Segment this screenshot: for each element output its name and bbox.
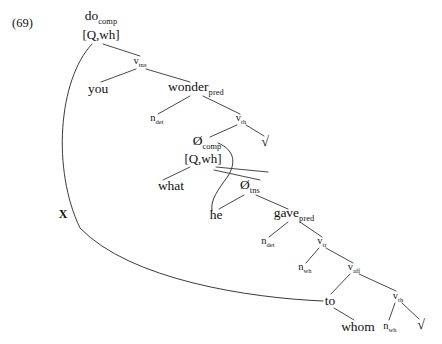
node-text: √ — [417, 317, 425, 332]
node-subscript: wh — [304, 267, 312, 274]
tree-node-you: you — [88, 82, 108, 96]
tree-node-q-wh-emb: [Q,wh] — [184, 152, 221, 165]
tree-node-what: what — [158, 179, 184, 193]
node-subscript: aff — [353, 267, 360, 274]
node-subscript: pred — [209, 88, 224, 97]
node-subscript: comp — [98, 17, 117, 26]
node-subscript: det — [267, 241, 275, 248]
tree-branch — [334, 308, 354, 320]
tree-edge-layer — [101, 44, 419, 320]
node-text: √ — [261, 134, 269, 149]
tree-node-v-aff: vaff — [348, 262, 361, 275]
example-number: (69) — [12, 17, 33, 30]
tree-diagram-svg: X — [0, 0, 442, 344]
movement-arc-label: X — [59, 207, 68, 221]
tree-branch — [216, 167, 268, 172]
tree-branch — [331, 274, 350, 294]
node-subscript: tns — [250, 186, 260, 195]
tree-node-he: he — [210, 208, 223, 222]
tree-node-to: to — [325, 294, 336, 308]
node-text: Ø — [240, 177, 250, 192]
tree-node-v-tr: vtr — [317, 236, 326, 249]
tree-node-root-1: √ — [261, 135, 269, 149]
tree-node-null-comp: Øcomp — [193, 134, 222, 151]
node-text: [Q,wh] — [82, 27, 119, 42]
node-subscript: tns — [139, 61, 147, 68]
node-text: whom — [341, 319, 375, 334]
tree-branch — [219, 195, 244, 209]
node-text: to — [325, 293, 336, 308]
node-text: gave — [274, 205, 299, 220]
node-subscript: tr — [323, 241, 327, 248]
node-subscript: th — [241, 118, 246, 125]
tree-branch — [203, 96, 240, 114]
node-subscript: det — [156, 118, 164, 125]
figure-canvas: X docomp[Q,wh]vtnsyouwonderpredndetvthØc… — [0, 0, 442, 344]
node-subscript: pred — [299, 214, 314, 223]
node-text: wonder — [168, 79, 209, 94]
node-text: what — [158, 178, 184, 193]
tree-node-root-2: √ — [417, 318, 425, 332]
tree-node-n-wh-2: nwh — [383, 321, 396, 334]
tree-node-q-wh-top: [Q,wh] — [82, 28, 119, 41]
node-text: he — [210, 207, 223, 222]
tree-branch — [158, 96, 190, 114]
tree-node-gave: gavepred — [274, 206, 315, 223]
tree-branch — [389, 303, 395, 320]
node-subscript: wh — [389, 326, 397, 333]
tree-node-null-tns: Øtns — [240, 178, 260, 195]
tree-node-wonder: wonderpred — [168, 80, 224, 97]
node-text: you — [88, 81, 108, 96]
tree-branch — [359, 274, 396, 291]
tree-node-n-det-1: ndet — [150, 113, 164, 126]
tree-node-n-det-2: ndet — [261, 236, 275, 249]
tree-node-do-comp: docomp — [85, 9, 117, 26]
tree-node-v-tns-top: vtns — [133, 56, 146, 69]
tree-node-v-th-2: vth — [393, 291, 404, 304]
node-text: [Q,wh] — [184, 151, 221, 166]
tree-node-n-wh-1: nwh — [298, 262, 311, 275]
tree-branch — [101, 69, 136, 82]
node-text: Ø — [193, 133, 203, 148]
tree-node-whom: whom — [341, 320, 375, 334]
tree-node-v-th-1: vth — [236, 113, 247, 126]
node-text: do — [85, 8, 99, 23]
node-subscript: th — [398, 296, 403, 303]
